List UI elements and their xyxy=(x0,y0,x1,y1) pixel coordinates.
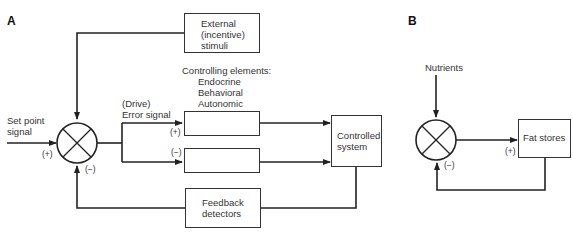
lower-branch-sign: (−) xyxy=(171,147,182,157)
feedback-sign: (−) xyxy=(85,164,96,174)
error-signal-drive: (Drive) xyxy=(122,98,171,109)
fat-stores-box: Fat stores xyxy=(518,119,571,158)
external-stimuli-line-2: (incentive) xyxy=(201,29,259,40)
panel-b-feedback-sign: (−) xyxy=(444,160,455,170)
controlling-element-endocrine: Endocrine xyxy=(182,76,271,87)
controlled-system-line-1: Controlled xyxy=(337,130,381,141)
external-stimuli-box: External (incentive) stimuli xyxy=(184,13,260,53)
panel-b-label: B xyxy=(408,14,417,28)
fat-stores-input-sign: (+) xyxy=(505,146,516,156)
set-point-line-1: Set point xyxy=(7,115,45,126)
controlling-element-box-lower xyxy=(184,148,260,173)
set-point-line-2: signal xyxy=(7,126,45,137)
feedback-detectors-line-1: Feedback xyxy=(202,197,260,208)
panel-a-label: A xyxy=(7,14,16,28)
controlled-system-line-2: system xyxy=(337,141,381,152)
controlling-element-autonomic: Autonomic xyxy=(182,98,271,109)
error-signal-label: (Drive) Error signal xyxy=(122,98,171,120)
diagram-connections xyxy=(0,0,573,232)
fat-stores-label: Fat stores xyxy=(523,132,570,143)
controlling-element-box-upper xyxy=(184,111,260,136)
controlling-elements-title: Controlling elements: xyxy=(182,65,271,76)
external-stimuli-line-3: stimuli xyxy=(201,40,259,51)
set-point-sign: (+) xyxy=(42,149,53,159)
nutrients-label: Nutrients xyxy=(425,62,463,73)
error-signal-text: Error signal xyxy=(122,109,171,120)
controlling-elements-label: Controlling elements: Endocrine Behavior… xyxy=(182,65,271,109)
external-stimuli-line-1: External xyxy=(201,18,259,29)
set-point-label: Set point signal xyxy=(7,115,45,137)
upper-branch-sign: (+) xyxy=(170,127,181,137)
feedback-detectors-line-2: detectors xyxy=(202,208,260,219)
feedback-detectors-box: Feedback detectors xyxy=(185,188,261,228)
controlling-element-behavioral: Behavioral xyxy=(182,87,271,98)
controlled-system-box: Controlled system xyxy=(331,115,382,167)
